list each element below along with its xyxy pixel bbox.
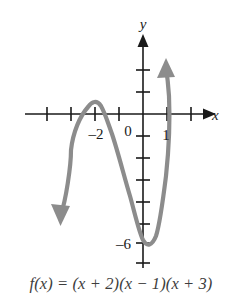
y-tick-label--6: –6 [115, 236, 132, 252]
x-tick-label--2: –2 [88, 126, 104, 142]
x-axis-label: x [211, 107, 219, 123]
y-axis-arrow-icon [138, 34, 149, 47]
x-tick-label-1: 1 [162, 127, 170, 143]
x-axis [25, 107, 216, 121]
cubic-curve [61, 67, 170, 245]
graph-figure: x y 0 –2 1 –6 f(x) = (x + 2)(x − 1)(x + … [0, 0, 242, 306]
cubic-function-plot: x y 0 –2 1 –6 [0, 0, 242, 272]
figure-caption: f(x) = (x + 2)(x − 1)(x + 3) [0, 274, 242, 294]
curve-right-arrow-icon [157, 58, 175, 78]
curve-left-arrow-icon [51, 204, 70, 226]
origin-label: 0 [124, 123, 132, 139]
function-curve-group [51, 58, 175, 245]
y-axis-label: y [138, 16, 147, 32]
